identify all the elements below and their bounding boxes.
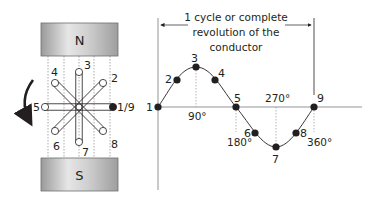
south-magnet: S [41,158,118,191]
cycle-label: 1 cycle or complete revolution of the co… [184,11,288,53]
wave-point-2 [173,76,180,83]
wave-label-2: 2 [165,73,172,86]
conductor-position-4 [51,79,58,86]
label-pos-2: 2 [111,72,118,85]
wave-point-1 [154,103,161,110]
north-magnet: N [41,23,118,56]
generator: N S [25,23,135,191]
wave-label-5: 5 [234,92,241,105]
conductor-position-7 [75,138,82,145]
label-pos-4: 4 [51,66,58,79]
label-pos-1-9: 1/9 [117,101,135,114]
wave-label-4: 4 [218,67,225,80]
wave-point-7 [272,143,279,150]
wave-label-7: 7 [272,153,279,166]
wave-point-6 [251,129,258,136]
wave-label-8: 8 [300,127,307,140]
label-pos-5: 5 [33,101,40,114]
wave-point-8 [292,129,299,136]
wave-label-3: 3 [191,52,198,65]
conductor-position-3 [75,68,82,75]
svg-text:1 cycle or complete: 1 cycle or complete [184,11,288,23]
svg-text:conductor: conductor [210,41,263,53]
degree-label-360: 360° [307,136,332,148]
conductor-pivot [76,104,82,110]
svg-text:revolution of the: revolution of the [193,26,280,38]
conductor-position-2 [99,79,106,86]
label-pos-3: 3 [84,59,91,72]
waveform-graph: 1 cycle or complete revolution of the co… [146,11,362,190]
conductor-position-8 [99,127,106,134]
rotation-arrow-icon [25,80,33,122]
conductor-position-1-active [109,103,116,110]
north-label: N [75,33,85,48]
wave-label-1: 1 [146,101,153,114]
label-pos-6: 6 [53,140,60,153]
label-pos-7: 7 [82,146,89,159]
degree-label-180: 180° [227,136,252,148]
generator-waveform-diagram: N S [0,0,376,201]
wave-label-9: 9 [317,92,324,105]
conductor-position-5 [41,103,48,110]
degree-label-270: 270° [265,92,290,104]
south-label: S [75,168,83,183]
degree-label-90: 90° [188,110,207,122]
conductor-position-6 [51,127,58,134]
label-pos-8: 8 [111,138,118,151]
